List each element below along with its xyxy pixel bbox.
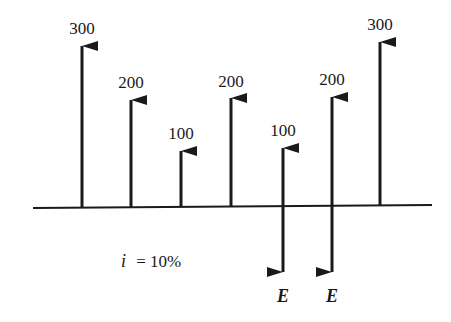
cash-outflow-arrows bbox=[283, 206, 332, 272]
cash-flow-diagram: 300200100200100200300EE i = 10% bbox=[0, 0, 451, 322]
interest-rate-label: i = 10% bbox=[121, 251, 181, 271]
cash-inflow-arrows bbox=[82, 42, 380, 208]
expense-label: E bbox=[325, 286, 338, 306]
inflow-amount-label: 300 bbox=[69, 19, 95, 38]
inflow-amount-label: 200 bbox=[319, 70, 345, 89]
inflow-amount-label: 200 bbox=[218, 72, 244, 91]
expense-label: E bbox=[276, 286, 289, 306]
inflow-amount-label: 200 bbox=[118, 73, 144, 92]
inflow-amount-label: 100 bbox=[270, 121, 296, 140]
inflow-amount-label: 100 bbox=[168, 124, 194, 143]
interest-value: = 10% bbox=[136, 252, 181, 271]
interest-variable: i bbox=[121, 251, 126, 271]
inflow-amount-label: 300 bbox=[367, 15, 393, 34]
